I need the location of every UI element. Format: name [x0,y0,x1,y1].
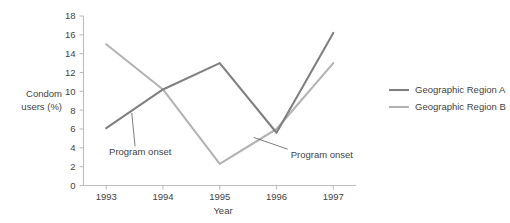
annotation-leader-line [132,113,135,146]
x-tick-label: 1996 [266,191,287,202]
series-line-a [106,33,333,133]
x-tick-label: 1994 [152,191,173,202]
y-tick-label: 4 [70,142,75,153]
chart-legend: Geographic Region AGeographic Region B [389,84,506,112]
y-tick-label: 10 [65,86,76,97]
x-tick-group: 19931994199519961997 [96,186,344,203]
x-tick-label: 1995 [209,191,230,202]
annotation-label: Program onset [291,149,354,160]
y-tick-label: 2 [70,161,75,172]
x-axis: 19931994199519961997 Year [84,186,357,217]
x-axis-title: Year [213,205,232,216]
annotation-label: Program onset [109,146,172,157]
y-tick-group: 024681012141618 [65,10,84,191]
chart-canvas: Condom users (%) 024681012141618 1993199… [0,0,510,223]
y-axis-title: Condom users (%) [21,88,62,112]
y-tick-label: 12 [65,67,76,78]
legend-label-a: Geographic Region A [415,84,506,95]
line-chart: Condom users (%) 024681012141618 1993199… [0,0,510,223]
y-tick-label: 6 [70,123,75,134]
series-group [106,33,333,164]
y-tick-label: 8 [70,105,75,116]
legend-label-b: Geographic Region B [415,101,506,112]
annotation-group: Program onsetProgram onset [109,113,353,160]
y-axis: 024681012141618 [65,10,84,191]
x-tick-label: 1997 [323,191,344,202]
y-axis-title-line2: users (%) [21,101,62,112]
y-tick-label: 14 [65,48,76,59]
y-tick-label: 18 [65,10,76,21]
annotation-leader-line [254,137,288,149]
y-tick-label: 16 [65,29,76,40]
y-tick-label: 0 [70,180,75,191]
x-tick-label: 1993 [96,191,117,202]
y-axis-title-line1: Condom [26,88,62,99]
